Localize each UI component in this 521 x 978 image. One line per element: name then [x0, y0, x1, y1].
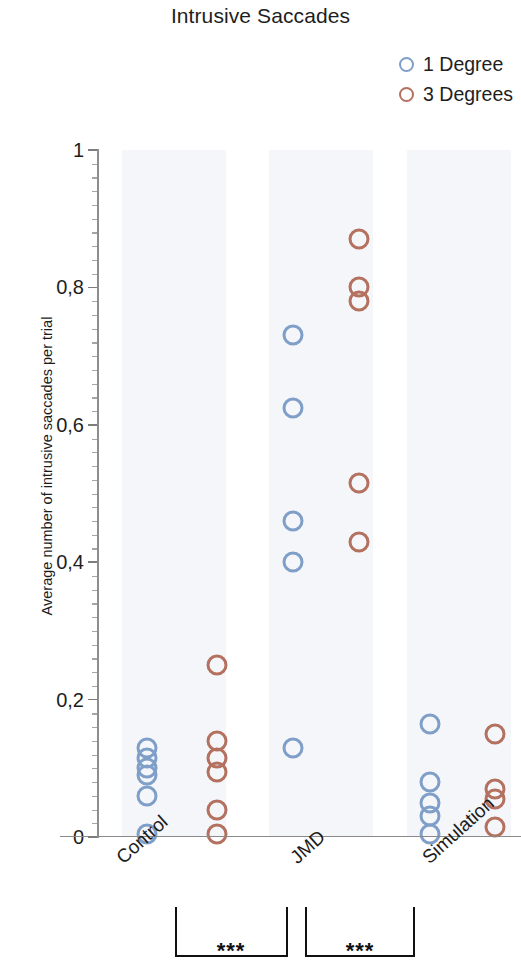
legend-item-3-degrees[interactable]: 3 Degrees [399, 83, 513, 106]
y-axis-minor-tick [92, 164, 97, 165]
significance-label: *** [346, 938, 375, 964]
y-axis-tick [88, 561, 97, 563]
data-point [137, 765, 158, 786]
y-axis-tick-labels: 00,20,40,60,81 [10, 0, 84, 978]
y-axis-minor-tick [92, 219, 97, 220]
y-axis-minor-tick [92, 507, 97, 508]
legend-label: 3 Degrees [423, 83, 513, 106]
y-axis-tick-label: 1 [14, 139, 84, 162]
y-axis-tick [88, 424, 97, 426]
data-point [349, 291, 370, 312]
data-point [420, 772, 441, 793]
y-axis-tick [88, 699, 97, 701]
y-axis-tick-label: 0,6 [14, 413, 84, 436]
y-axis-minor-tick [92, 384, 97, 385]
y-axis-minor-tick [92, 741, 97, 742]
y-axis-minor-tick [92, 274, 97, 275]
data-point [137, 785, 158, 806]
y-axis-minor-tick [92, 548, 97, 549]
data-point [283, 397, 304, 418]
y-axis-minor-tick [92, 329, 97, 330]
y-axis-minor-tick [92, 535, 97, 536]
y-axis-minor-tick [92, 397, 97, 398]
y-axis-minor-tick [92, 177, 97, 178]
y-axis-minor-tick [92, 452, 97, 453]
y-axis-minor-tick [92, 617, 97, 618]
y-axis-minor-tick [92, 823, 97, 824]
y-axis-tick-label: 0,2 [14, 688, 84, 711]
y-axis-minor-tick [92, 439, 97, 440]
y-axis-tick [88, 149, 97, 151]
y-axis-minor-tick [92, 494, 97, 495]
legend-marker-circle-icon [399, 57, 414, 72]
data-point [207, 799, 228, 820]
y-axis-minor-tick [92, 782, 97, 783]
y-axis-minor-tick [92, 768, 97, 769]
y-axis-minor-tick [92, 672, 97, 673]
y-axis-minor-tick [92, 796, 97, 797]
y-axis-minor-tick [92, 191, 97, 192]
data-point [283, 737, 304, 758]
y-axis-line [97, 149, 99, 838]
data-point [349, 531, 370, 552]
y-axis-tick [88, 287, 97, 289]
y-axis-minor-tick [92, 603, 97, 604]
data-point [485, 816, 506, 837]
y-axis-minor-tick [92, 576, 97, 577]
y-axis-minor-tick [92, 411, 97, 412]
y-axis-minor-tick [92, 246, 97, 247]
data-point [420, 713, 441, 734]
y-axis-minor-tick [92, 727, 97, 728]
data-point [283, 510, 304, 531]
y-axis-minor-tick [92, 260, 97, 261]
data-point [283, 325, 304, 346]
y-axis-tick-label: 0,8 [14, 276, 84, 299]
y-axis-minor-tick [92, 370, 97, 371]
y-axis-minor-tick [92, 301, 97, 302]
y-axis-tick-label: 0,4 [14, 551, 84, 574]
y-axis-minor-tick [92, 810, 97, 811]
y-axis-minor-tick [92, 686, 97, 687]
y-axis-minor-tick [92, 480, 97, 481]
data-point [349, 229, 370, 250]
data-point [207, 823, 228, 844]
y-axis-minor-tick [92, 713, 97, 714]
y-axis-minor-tick [92, 590, 97, 591]
y-axis-minor-tick [92, 466, 97, 467]
data-point [283, 552, 304, 573]
y-axis-minor-tick [92, 205, 97, 206]
legend-item-1-degree[interactable]: 1 Degree [399, 53, 513, 76]
data-point [207, 761, 228, 782]
legend-label: 1 Degree [423, 53, 503, 76]
y-axis-minor-tick [92, 342, 97, 343]
y-axis-minor-tick [92, 755, 97, 756]
chart-legend: 1 Degree 3 Degrees [399, 53, 513, 106]
legend-marker-circle-icon [399, 87, 414, 102]
chart-figure: Intrusive Saccades 1 Degree 3 Degrees Av… [0, 0, 521, 978]
data-point [207, 655, 228, 676]
data-point [485, 723, 506, 744]
y-axis-minor-tick [92, 232, 97, 233]
data-point [349, 473, 370, 494]
significance-label: *** [217, 938, 246, 964]
y-axis-minor-tick [92, 356, 97, 357]
y-axis-minor-tick [92, 631, 97, 632]
y-axis-tick [88, 836, 97, 838]
y-axis-minor-tick [92, 521, 97, 522]
y-axis-minor-tick [92, 315, 97, 316]
plot-area [97, 150, 509, 837]
y-axis-minor-tick [92, 645, 97, 646]
y-axis-minor-tick [92, 658, 97, 659]
